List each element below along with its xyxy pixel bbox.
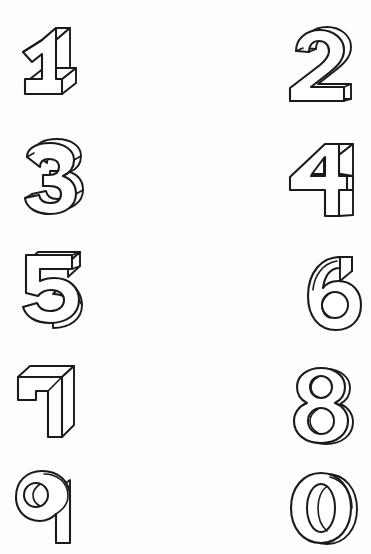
numeral-cell-9[interactable]: 9: [14, 470, 74, 544]
numeral-label-8: 8: [291, 368, 292, 369]
numeral-cell-3[interactable]: 3: [18, 139, 80, 213]
numeral-cell-6[interactable]: 6: [291, 255, 353, 329]
numeral-cell-2[interactable]: 2: [288, 29, 354, 101]
numeral-label-1: 1: [18, 27, 19, 28]
numeral-label-0: 0: [291, 472, 292, 473]
numeral-cell-8[interactable]: 8: [291, 368, 351, 442]
worksheet-page: 1 2 3 4 5 6 7 8 9 0: [0, 0, 371, 554]
numeral-label-9: 9: [14, 470, 15, 471]
numeral-label-5: 5: [18, 251, 19, 252]
numeral-label-2: 2: [288, 29, 289, 30]
numeral-cell-0[interactable]: 0: [291, 472, 351, 546]
numeral-label-7: 7: [14, 364, 15, 365]
numeral-label-4: 4: [287, 143, 288, 144]
numeral-cell-1[interactable]: 1: [18, 27, 80, 102]
numeral-cell-5[interactable]: 5: [18, 251, 81, 324]
numeral-label-6: 6: [291, 255, 292, 256]
numeral-cell-7[interactable]: 7: [14, 364, 74, 438]
numeral-cell-4[interactable]: 4: [287, 143, 355, 216]
numeral-label-3: 3: [18, 139, 19, 140]
